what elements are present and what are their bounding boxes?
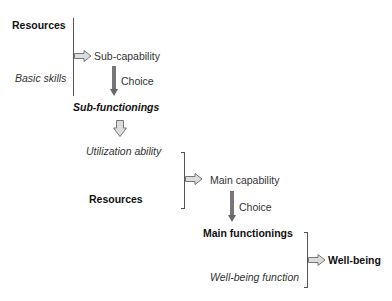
bracket-stage3-bottom-tick [304, 287, 308, 288]
well-being-function-label: Well-being function [210, 272, 299, 283]
sub-capability-label: Sub-capability [94, 51, 160, 62]
hollow-arrow-down-icon [113, 120, 127, 137]
hollow-arrow-right-icon [74, 50, 92, 62]
well-being-label: Well-being [328, 255, 381, 266]
choice-label-2: Choice [239, 202, 272, 213]
bracket-stage3-top-tick [304, 232, 308, 233]
bracket-stage2-bottom-tick [181, 208, 185, 209]
resources-label-1: Resources [12, 20, 66, 31]
resources-label-2: Resources [89, 194, 143, 205]
utilization-ability-label: Utilization ability [86, 146, 161, 157]
main-capability-label: Main capability [210, 175, 279, 186]
basic-skills-label: Basic skills [15, 73, 66, 84]
hollow-arrow-right-icon [185, 173, 203, 185]
bracket-stage2-top-tick [181, 152, 185, 153]
sub-functionings-label: Sub-functionings [73, 102, 159, 113]
solid-arrow-down-icon [228, 191, 236, 222]
solid-arrow-down-icon [110, 66, 118, 96]
hollow-arrow-right-icon [308, 254, 326, 266]
choice-label-1: Choice [121, 76, 154, 87]
main-functionings-label: Main functionings [203, 228, 293, 239]
